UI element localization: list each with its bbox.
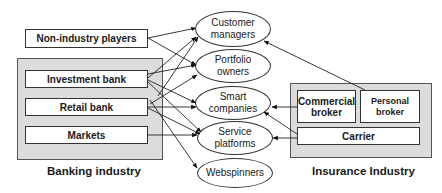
connector-arrows <box>0 0 442 193</box>
